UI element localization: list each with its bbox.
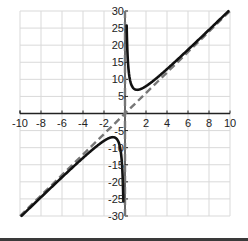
curve-branch-right (127, 11, 229, 90)
y-tick-label: 5 (118, 90, 124, 102)
x-tick-label: 4 (164, 117, 170, 129)
x-tick-label: 6 (185, 117, 191, 129)
y-tick-label: -10 (108, 142, 124, 154)
y-tick-label: 15 (112, 56, 124, 68)
y-tick-label: -15 (108, 159, 124, 171)
x-tick-label: -4 (78, 117, 88, 129)
y-tick-label: -20 (108, 176, 124, 188)
y-tick-label: 20 (112, 39, 124, 51)
y-tick-label: -30 (108, 210, 124, 222)
x-tick-label: -8 (36, 117, 46, 129)
function-plot: -10-8-6-4-2246810 30252015105-5-10-15-20… (0, 0, 248, 241)
x-tick-label: 2 (143, 117, 149, 129)
x-tick-label: -6 (57, 117, 67, 129)
y-tick-label: -25 (108, 193, 124, 205)
y-tick-label: -5 (114, 125, 124, 137)
x-tick-label: 10 (224, 117, 236, 129)
y-tick-label: 10 (112, 73, 124, 85)
x-tick-label: -10 (12, 117, 28, 129)
x-tick-label: 8 (206, 117, 212, 129)
y-tick-label: 30 (112, 5, 124, 17)
y-tick-label: 25 (112, 22, 124, 34)
x-tick-label: -2 (99, 117, 109, 129)
